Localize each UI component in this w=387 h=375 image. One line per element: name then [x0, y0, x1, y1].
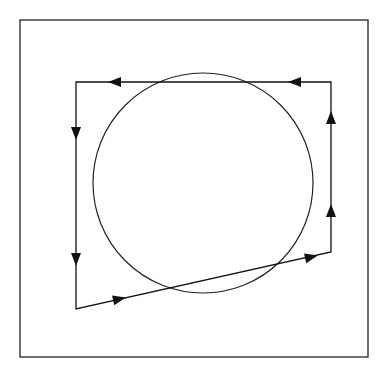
arrowhead-icon	[304, 251, 319, 264]
circle	[93, 73, 313, 293]
arrowhead-icon	[326, 204, 336, 217]
direction-arrows	[71, 77, 336, 305]
outer-frame	[20, 20, 368, 357]
arrowhead-icon	[108, 77, 121, 87]
arrowhead-icon	[112, 293, 127, 306]
closed-path	[76, 82, 331, 309]
arrowhead-icon	[71, 253, 81, 266]
arrowhead-icon	[71, 127, 81, 140]
arrowhead-icon	[288, 77, 301, 87]
arrowhead-icon	[326, 111, 336, 124]
diagram-canvas	[0, 0, 387, 375]
